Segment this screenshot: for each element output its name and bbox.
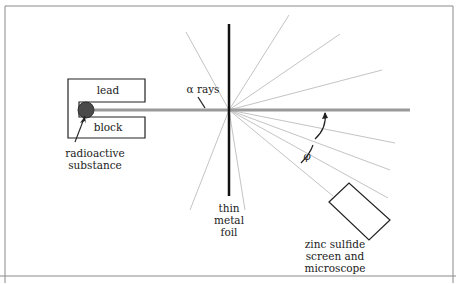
- zinc-sulfide-detector: [329, 183, 390, 240]
- ray-up-3: [229, 70, 382, 110]
- scattering-diagram: [0, 0, 456, 284]
- diagram-canvas: lead block α rays radioactive substance …: [0, 0, 456, 284]
- label-angle-phi: φ: [301, 150, 313, 162]
- label-radioactive-1: radioactive: [55, 147, 135, 159]
- ray-up-1: [229, 15, 289, 110]
- angle-arrowhead: [322, 112, 328, 119]
- scattered-rays: [186, 15, 395, 210]
- label-foil-3: foil: [209, 226, 249, 238]
- ray-down-steep: [229, 110, 245, 210]
- label-detector-2: screen and: [295, 250, 375, 262]
- alpha-rays-pointer: [198, 97, 205, 108]
- ray-up-2: [229, 34, 340, 110]
- label-radioactive-2: substance: [55, 159, 135, 171]
- label-foil-1: thin: [209, 202, 249, 214]
- label-alpha-rays: α rays: [183, 83, 223, 95]
- ray-to-detector: [229, 110, 333, 196]
- label-detector-1: zinc sulfide: [295, 238, 375, 250]
- radioactive-source: [78, 102, 94, 118]
- label-foil-2: metal: [209, 214, 249, 226]
- label-block: block: [86, 121, 130, 133]
- ray-back-upper: [186, 32, 229, 110]
- label-lead: lead: [88, 84, 128, 96]
- label-detector-3: microscope: [295, 262, 375, 274]
- ray-back-lower: [190, 110, 229, 210]
- ray-down-1: [229, 110, 395, 143]
